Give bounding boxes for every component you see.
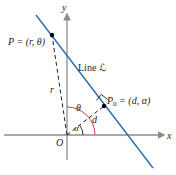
alpha-label: α xyxy=(74,123,79,133)
d-label: d xyxy=(92,114,98,125)
point-P0-label: P0 = (d, α) xyxy=(106,95,151,108)
r-label: r xyxy=(50,84,54,95)
line-L-label: Line ℒ xyxy=(78,62,106,73)
alpha-arc xyxy=(80,125,83,135)
point-P-label: P = (r, θ) xyxy=(7,36,46,48)
segment-d xyxy=(67,106,104,135)
x-axis-label: x xyxy=(166,130,172,141)
polar-line-diagram: y x O P = (r, θ) Line ℒ P0 = (d, α) r d … xyxy=(0,0,176,175)
theta-arc xyxy=(67,107,95,135)
origin-label: O xyxy=(56,137,63,148)
point-P0 xyxy=(102,104,106,108)
theta-label: θ xyxy=(76,102,81,113)
y-axis-label: y xyxy=(61,2,67,13)
segment-r xyxy=(52,35,67,135)
point-P xyxy=(50,33,54,37)
